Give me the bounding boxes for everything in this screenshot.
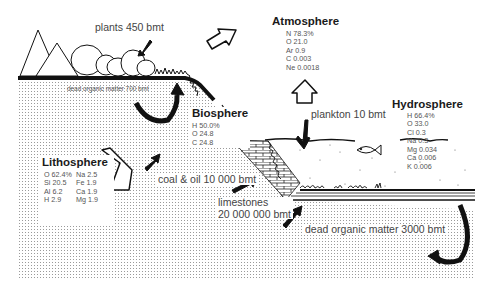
dead-organic-sea-label: dead organic matter 3000 bmt [303,224,447,235]
dead-organic-land-label: dead organic matter 700 bmt [67,86,149,92]
limestones-label: limestones [218,197,291,208]
lithosphere-block: Lithosphere O 62.4% Si 20.5 Al 6.2 H 2.9… [38,155,114,225]
carbon-cycle-diagram: plants 450 bmt dead organic matter 700 b… [0,0,490,287]
plants-label: plants 450 bmt [95,22,164,33]
biosphere-element: C 24.8 [192,139,248,148]
arrow-to-atmosphere-icon [207,29,236,49]
limestones-block: limestones 20 000 000 bmt [216,197,293,219]
atmosphere-block: Atmosphere N 78.3% O 21.0 Ar 0.9 C 0.003… [272,16,339,72]
atmosphere-title: Atmosphere [272,16,339,28]
hydrosphere-element: K 0.006 [407,163,463,172]
hydrosphere-title: Hydrosphere [392,99,463,111]
hydrosphere-block: Hydrosphere H 66.4% O 33.0 Cl 0.3 Na 0.3… [392,99,463,172]
plankton-label: plankton 10 bmt [311,109,386,120]
arrow-up-from-ocean-icon [292,80,317,103]
plants-drawing [20,30,155,76]
atmosphere-element: Ne 0.0018 [286,64,339,73]
lithosphere-title: Lithosphere [42,157,108,169]
limestones-amount: 20 000 000 bmt [218,209,291,220]
lithosphere-element: H 2.9 [44,196,76,205]
ocean-floor-sediment [285,183,475,200]
biosphere-title: Biosphere [192,108,248,120]
coal-oil-label: coal & oil 10 000 bmt [156,174,258,185]
biosphere-block: Biosphere H 50.0% O 24.8 C 24.8 [190,107,250,148]
arrow-plants-icon [138,40,152,56]
lithosphere-element: Mg 1.9 [76,196,106,205]
